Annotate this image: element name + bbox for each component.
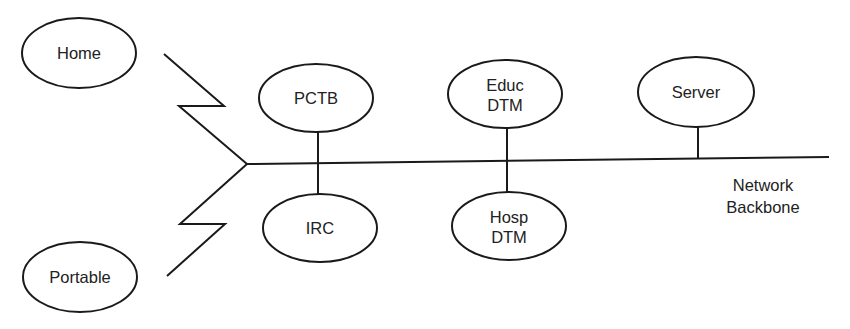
node-server-label: Server	[672, 83, 721, 101]
node-irc[interactable]: IRC	[263, 194, 377, 262]
portable-remote-link	[167, 164, 247, 276]
node-portable[interactable]: Portable	[23, 242, 137, 312]
node-home-label: Home	[57, 44, 101, 62]
node-educ-dtm-label-line2: DTM	[487, 96, 523, 114]
network-diagram: Home Portable PCTB IRC Educ DTM Hosp DTM…	[0, 0, 850, 329]
backbone-label-line2: Backbone	[726, 198, 799, 216]
node-educ-dtm-label-line1: Educ	[486, 76, 524, 94]
node-pctb-label: PCTB	[294, 89, 338, 107]
network-backbone-line	[246, 157, 829, 164]
node-hosp-dtm-ellipse	[452, 192, 566, 260]
node-irc-label: IRC	[306, 219, 335, 237]
node-hosp-dtm[interactable]: Hosp DTM	[452, 192, 566, 260]
backbone-label-line1: Network	[733, 176, 794, 194]
node-hosp-dtm-label-line1: Hosp	[490, 208, 529, 226]
node-educ-dtm[interactable]: Educ DTM	[448, 60, 562, 128]
node-home[interactable]: Home	[22, 18, 136, 88]
home-remote-link	[164, 54, 247, 164]
node-portable-label: Portable	[49, 268, 110, 286]
node-educ-dtm-ellipse	[448, 60, 562, 128]
node-server[interactable]: Server	[638, 57, 754, 127]
node-pctb[interactable]: PCTB	[259, 64, 373, 132]
node-hosp-dtm-label-line2: DTM	[491, 228, 527, 246]
